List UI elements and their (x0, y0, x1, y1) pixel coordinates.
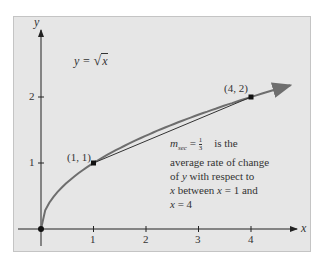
x-tick-label-1: 1 (90, 233, 96, 245)
equation-label: y = √x (74, 53, 108, 69)
anno-text: of (170, 170, 182, 182)
anno-line-4: x between x = 1 and (170, 183, 310, 197)
anno-text: between (175, 184, 217, 196)
secant-annotation: msec = 13is the average rate of change o… (170, 136, 310, 211)
msec-den: 3 (199, 145, 203, 152)
x-axis-label: x (301, 221, 306, 236)
anno-text: with respect to (187, 170, 255, 182)
equation-lhs: y = (74, 54, 93, 68)
point-label-1-1: (1, 1) (67, 151, 91, 163)
chart-plot (0, 0, 326, 263)
anno-line-1: msec = 13is the (170, 136, 310, 155)
msec-sub: sec (178, 144, 187, 152)
y-axis-label: y (34, 15, 39, 30)
anno-line-3: of y with respect to (170, 169, 310, 183)
equation-radicand: x (101, 53, 108, 68)
anno-text: = 1 and (222, 184, 258, 196)
msec-eq: = (187, 137, 199, 149)
anno-text: = 4 (175, 198, 192, 210)
x-tick-label-4: 4 (248, 233, 254, 245)
point-4-2 (249, 95, 254, 100)
point-1-1 (91, 161, 96, 166)
anno-line-2: average rate of change (170, 155, 310, 169)
msec-fraction: 13 (199, 137, 203, 152)
msec-rest: is the (214, 137, 238, 149)
y-tick-label-1: 1 (29, 156, 35, 168)
point-origin (38, 226, 44, 232)
x-tick-label-3: 3 (195, 233, 201, 245)
sqrt-symbol: √ (93, 53, 101, 68)
x-tick-label-2: 2 (143, 233, 149, 245)
anno-line-5: x = 4 (170, 197, 310, 211)
y-tick-label-2: 2 (29, 90, 35, 102)
point-label-4-2: (4, 2) (224, 82, 248, 94)
msec-m: m (170, 137, 178, 149)
